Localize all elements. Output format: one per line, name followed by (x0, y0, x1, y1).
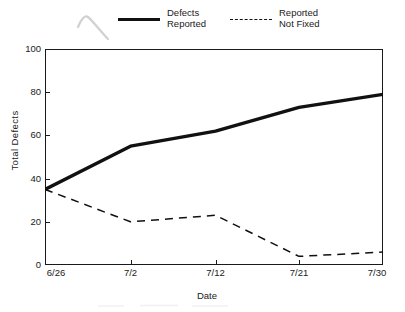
y-tick-mark-20 (45, 222, 50, 223)
chart-legend: Defects Reported Reported Not Fixed (75, 4, 375, 44)
pencil-scribble-artifact-icon (75, 10, 117, 42)
y-axis-tick-labels: 100 80 60 40 20 0 (0, 49, 41, 265)
legend-label-line2: Not Fixed (279, 19, 320, 30)
series-line-reported-not-fixed (45, 189, 383, 256)
y-tick-label-100: 100 (1, 44, 41, 54)
legend-label-reported-not-fixed: Reported Not Fixed (279, 8, 320, 29)
x-tick-mark-7-2 (131, 260, 132, 265)
y-tick-mark-80 (45, 92, 50, 93)
scan-smudge-artifact (96, 302, 246, 310)
series-line-defects-reported (45, 94, 383, 189)
legend-label-line1: Reported (279, 8, 320, 19)
y-tick-label-80: 80 (1, 87, 41, 97)
legend-item-reported-not-fixed: Reported Not Fixed (230, 8, 320, 29)
y-tick-label-40: 40 (1, 174, 41, 184)
legend-label-line1: Defects (167, 8, 206, 19)
defects-line-chart: Defects Reported Reported Not Fixed 100 … (0, 0, 405, 312)
x-tick-mark-7-12 (216, 260, 217, 265)
x-tick-mark-7-21 (299, 260, 300, 265)
legend-item-defects-reported: Defects Reported (118, 8, 206, 29)
legend-dashed-line-sample (230, 13, 272, 25)
plot-data-lines (45, 49, 383, 265)
y-axis-title: Total Defects (9, 96, 20, 186)
legend-label-line2: Reported (167, 19, 206, 30)
legend-solid-line-sample (118, 13, 160, 25)
y-tick-mark-60 (45, 135, 50, 136)
legend-label-defects-reported: Defects Reported (167, 8, 206, 29)
y-tick-label-60: 60 (1, 131, 41, 141)
y-tick-label-20: 20 (1, 217, 41, 227)
x-axis-title-wrapper: Date (0, 290, 405, 301)
x-axis-title: Date (197, 290, 217, 301)
y-tick-label-0: 0 (1, 260, 41, 270)
x-tick-label-7-2: 7/2 (124, 268, 137, 278)
y-tick-mark-40 (45, 179, 50, 180)
x-tick-label-7-21: 7/21 (290, 268, 309, 278)
x-tick-label-7-12: 7/12 (206, 268, 225, 278)
x-tick-label-7-30: 7/30 (368, 268, 387, 278)
x-tick-label-6-26: 6/26 (47, 268, 66, 278)
